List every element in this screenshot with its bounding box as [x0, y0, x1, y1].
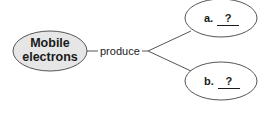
branch-a-blank: ?: [217, 12, 239, 26]
branch-b-blank: ?: [218, 75, 240, 89]
branch-a-answer: a.?: [204, 12, 239, 26]
branch-a-letter: a.: [204, 12, 213, 24]
central-node-label-line2: electrons: [12, 50, 88, 64]
connector-branch-b: [148, 51, 191, 71]
branch-b-letter: b.: [204, 75, 214, 87]
link-label-produce: produce: [98, 44, 142, 58]
branch-b-answer: b.?: [204, 75, 240, 89]
central-node-label-line1: Mobile: [12, 36, 88, 50]
connector-branch-a: [148, 31, 191, 51]
central-node-label: Mobile electrons: [12, 36, 88, 64]
